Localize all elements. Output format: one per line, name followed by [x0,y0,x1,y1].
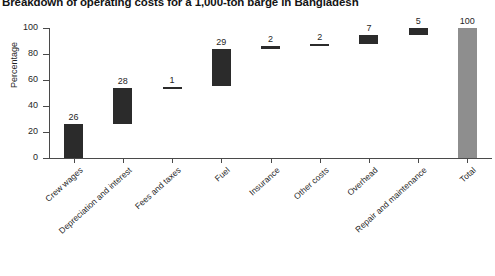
x-axis-label-other-costs: Other costs [175,165,330,276]
bar-depreciation-and-interest[interactable] [113,88,132,124]
x-tick-3 [221,159,222,163]
x-axis-label-fees-and-taxes: Fees and taxes [27,165,182,276]
y-axis-title: Percentage [9,25,19,105]
bar-value-fuel: 29 [201,37,241,47]
x-axis-label-overhead: Overhead [224,165,379,276]
y-tick-label-80: 80 [4,48,38,58]
bar-total[interactable] [458,28,477,158]
bar-value-fees-and-taxes: 1 [152,75,192,85]
bar-value-crew-wages: 26 [54,112,94,122]
x-tick-7 [418,159,419,163]
bar-value-other-costs: 2 [300,32,340,42]
x-axis-label-total: Total [323,165,478,276]
bar-repair-and-maintenance[interactable] [409,28,428,35]
bar-insurance[interactable] [261,46,280,49]
waterfall-chart: Breakdown of operating costs for a 1,000… [0,0,495,276]
bar-crew-wages[interactable] [64,124,83,158]
chart-title: Breakdown of operating costs for a 1,000… [2,0,482,8]
x-axis-label-repair-and-maintenance: Repair and maintenance [274,165,429,276]
bar-value-overhead: 7 [349,23,389,33]
bar-value-repair-and-maintenance: 5 [398,16,438,26]
x-tick-4 [271,159,272,163]
x-tick-6 [369,159,370,163]
y-tick-label-20: 20 [4,126,38,136]
y-tick-20 [43,132,49,133]
bar-value-total: 100 [447,16,487,26]
bar-fuel[interactable] [212,49,231,87]
x-axis-label-fuel: Fuel [77,165,232,276]
x-tick-2 [172,159,173,163]
y-tick-label-40: 40 [4,100,38,110]
x-tick-5 [320,159,321,163]
bar-overhead[interactable] [359,35,378,44]
y-tick-label-60: 60 [4,74,38,84]
y-tick-label-100: 100 [4,22,38,32]
y-tick-40 [43,106,49,107]
y-tick-80 [43,54,49,55]
x-tick-1 [123,159,124,163]
x-tick-0 [74,159,75,163]
y-tick-60 [43,80,49,81]
y-axis-line [49,28,50,159]
x-tick-8 [467,159,468,163]
x-axis-label-insurance: Insurance [126,165,281,276]
y-tick-label-0: 0 [4,152,38,162]
y-tick-0 [43,158,49,159]
bar-value-depreciation-and-interest: 28 [103,76,143,86]
bar-other-costs[interactable] [310,44,329,47]
y-tick-100 [43,28,49,29]
bar-fees-and-taxes[interactable] [163,87,182,90]
bar-value-insurance: 2 [251,34,291,44]
